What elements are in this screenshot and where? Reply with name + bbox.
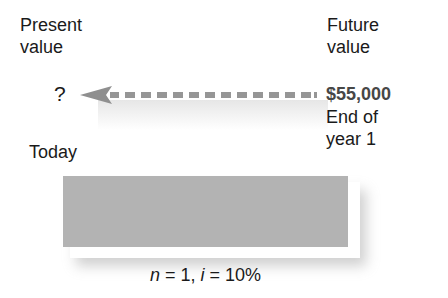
formula: n = 1, i = 10% [0, 264, 411, 286]
present-value-title: Present value [20, 14, 82, 58]
formula-n-value: = 1, [160, 265, 201, 285]
future-value-title-line1: Future [327, 14, 379, 36]
dashed-left-arrow-icon [80, 85, 320, 109]
future-value-title: Future value [327, 14, 379, 58]
timeline-bar [63, 176, 348, 247]
future-time-label: End of year 1 [326, 106, 378, 150]
future-time-label-line1: End of [326, 106, 378, 128]
formula-n-variable: n [150, 265, 160, 285]
present-value-title-line2: value [20, 36, 82, 58]
present-value-amount: ? [54, 82, 66, 106]
future-value-title-line2: value [327, 36, 379, 58]
formula-i-value: = 10% [205, 265, 262, 285]
present-value-title-line1: Present [20, 14, 82, 36]
future-value-amount: $55,000 [326, 83, 391, 105]
future-time-label-line2: year 1 [326, 128, 378, 150]
present-time-label: Today [29, 141, 77, 163]
